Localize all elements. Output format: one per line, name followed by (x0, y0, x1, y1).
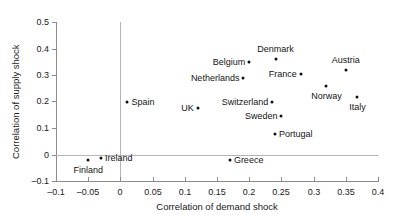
data-point-label: Belgium (213, 57, 246, 67)
x-axis-tick (153, 177, 154, 181)
x-axis-tick (185, 177, 186, 181)
data-point (228, 159, 231, 162)
x-axis-tick (120, 177, 121, 181)
y-axis-title: Correlation of supply shock (10, 44, 21, 159)
y-axis-tick (52, 128, 56, 129)
scatter-chart-figure: –0.1–0.0500.050.10.150.20.250.30.350.4–0… (0, 0, 401, 222)
x-axis-tick (314, 177, 315, 181)
plot-area: –0.1–0.0500.050.10.150.20.250.30.350.4–0… (0, 0, 401, 222)
y-axis-tick (52, 181, 56, 182)
data-point (126, 101, 129, 104)
data-point (344, 69, 347, 72)
data-point-label: Denmark (257, 44, 294, 54)
x-axis-tick (346, 177, 347, 181)
data-point-label: France (269, 69, 297, 79)
data-point-label: Spain (131, 97, 154, 107)
x-axis-tick (378, 177, 379, 181)
x-axis-line (56, 181, 379, 182)
y-axis-tick-label: 0.1 (0, 123, 49, 133)
x-axis-tick-label: 0.4 (372, 187, 385, 197)
y-axis-tick-label: –0.1 (0, 176, 49, 186)
data-point (273, 132, 276, 135)
data-point (196, 106, 199, 109)
data-point-label: Italy (349, 102, 366, 112)
data-point (100, 157, 103, 160)
x-axis-tick (56, 177, 57, 181)
x-axis-tick (249, 177, 250, 181)
data-point (356, 95, 359, 98)
x-axis-tick-label: 0.1 (179, 187, 192, 197)
y-axis-tick (52, 155, 56, 156)
data-point-label: Sweden (245, 111, 278, 121)
y-axis-tick (52, 101, 56, 102)
data-point (280, 115, 283, 118)
x-axis-tick-label: 0.15 (208, 187, 226, 197)
x-axis-tick-label: 0.25 (272, 187, 290, 197)
y-axis-tick-label: 0.4 (0, 44, 49, 54)
y-axis-tick-label: 0.5 (0, 17, 49, 27)
data-point (299, 72, 302, 75)
data-point-label: Norway (311, 91, 342, 101)
x-axis-tick-label: 0.3 (308, 187, 321, 197)
data-point-label: Ireland (105, 153, 133, 163)
data-point-label: Switzerland (222, 97, 269, 107)
x-axis-tick-label: 0.35 (337, 187, 355, 197)
data-point-label: UK (181, 103, 194, 113)
y-axis-tick (52, 49, 56, 50)
x-axis-tick-label: –0.05 (77, 187, 100, 197)
x-axis-tick (88, 177, 89, 181)
x-axis-title: Correlation of demand shock (156, 201, 277, 212)
x-axis-tick-label: –0.1 (47, 187, 65, 197)
data-point-label: Finland (73, 165, 103, 175)
data-point-label: Greece (234, 155, 264, 165)
data-point-label: Netherlands (191, 73, 240, 83)
y-axis-tick-label: 0.2 (0, 96, 49, 106)
data-point (271, 100, 274, 103)
data-point (242, 76, 245, 79)
x-axis-tick-label: 0.05 (144, 187, 162, 197)
x-axis-tick-label: 0.2 (243, 187, 256, 197)
data-point (325, 85, 328, 88)
data-point (274, 58, 277, 61)
data-point (87, 158, 90, 161)
data-point-label: Portugal (279, 129, 313, 139)
y-axis-tick-label: 0 (0, 150, 49, 160)
data-point-label: Austria (332, 55, 360, 65)
y-axis-tick-label: 0.3 (0, 70, 49, 80)
data-point (248, 60, 251, 63)
x-axis-tick-label: 0 (117, 187, 122, 197)
y-axis-line (56, 22, 57, 182)
x-axis-tick (217, 177, 218, 181)
x-axis-tick (281, 177, 282, 181)
y-axis-tick (52, 75, 56, 76)
y-axis-tick (52, 22, 56, 23)
